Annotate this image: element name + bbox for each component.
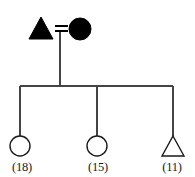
circle-filled-icon[interactable] [69,18,91,40]
age-label-child-1: (18) [12,160,32,174]
connector-lines [20,31,173,136]
circle-open-icon-child-2[interactable] [87,136,107,156]
age-labels-group: (18) (15) (11) [12,160,182,174]
generation-2-group [10,136,184,156]
age-label-child-3: (11) [162,160,182,174]
age-label-child-2: (15) [88,160,108,174]
triangle-open-icon-child-3[interactable] [162,136,184,156]
circle-open-icon-child-1[interactable] [10,136,30,156]
triangle-filled-icon[interactable] [29,17,53,39]
equals-mating-icon [55,26,68,31]
pedigree-chart: (18) (15) (11) [0,0,195,177]
pedigree-svg-canvas: (18) (15) (11) [0,0,195,177]
